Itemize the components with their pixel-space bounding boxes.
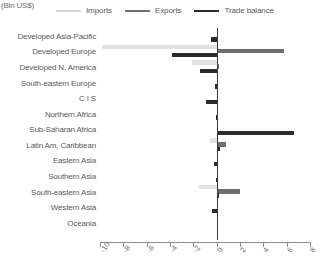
bar-group [0,90,320,106]
bar-group [0,199,320,215]
x-axis-tick-label: -2 [191,244,202,255]
chart-row: Developed Europe [0,44,320,60]
x-axis: -10-8-6-4-202468 [0,242,320,277]
chart-row: South-eastern Asia [0,184,320,200]
chart-row: Oceania [0,215,320,231]
bar-balance [200,69,216,73]
bar-group [0,28,320,44]
category-rows: Developed Asia-PacificDeveloped EuropeDe… [0,28,320,240]
chart-legend: Imports Exports Trade balance [56,6,274,15]
bar-exports [217,49,285,53]
bar-imports [192,60,217,64]
bar-group [0,137,320,153]
bar-group [0,122,320,138]
chart-row: Developed Asia-Pacific [0,28,320,44]
legend-swatch-exports-icon [125,10,150,12]
x-axis-tick-label: -8 [121,244,132,255]
bar-balance [172,53,216,57]
legend-swatch-imports-icon [56,10,81,12]
bar-group [0,153,320,169]
bar-imports [199,185,217,189]
bar-group [0,168,320,184]
x-axis-tick-label: 6 [285,246,295,255]
chart-row: Latin Am, Caribbean [0,137,320,153]
chart-row: C I S [0,90,320,106]
chart-row: Eastern Asia [0,153,320,169]
legend-label-exports: Exports [155,6,181,15]
x-axis-tick-label: -6 [145,244,156,255]
bar-imports [102,45,216,49]
chart-row: Developed N. America [0,59,320,75]
chart-row: Sub-Saharan Africa [0,122,320,138]
bar-group [0,215,320,231]
x-axis-tick-label: 0 [215,246,225,255]
bar-balance [217,131,294,135]
chart-row: Western Asia [0,199,320,215]
axis-unit-label: (Bln US$) [1,1,34,10]
legend-item-exports: Exports [125,6,181,15]
x-axis-tick-label: 4 [261,246,271,255]
legend-label-imports: Imports [86,6,112,15]
legend-item-imports: Imports [56,6,112,15]
legend-label-trade-balance: Trade balance [224,6,274,15]
bar-group [0,44,320,60]
zero-axis-line [217,28,218,240]
bar-balance [206,100,217,104]
x-axis-tick-label: 8 [308,246,318,255]
trade-bar-chart: (Bln US$) Imports Exports Trade balance … [0,0,320,277]
x-axis-tick-label: 2 [238,246,248,255]
chart-row: South-eastern Europe [0,75,320,91]
chart-row: Northern Africa [0,106,320,122]
x-axis-line [100,242,310,243]
plot-area: Developed Asia-PacificDeveloped EuropeDe… [0,28,320,240]
x-axis-tick-label: -4 [168,244,179,255]
legend-item-trade-balance: Trade balance [194,6,274,15]
bar-group [0,184,320,200]
bar-group [0,59,320,75]
legend-swatch-trade-balance-icon [194,10,219,12]
chart-row: Southern Asia [0,168,320,184]
bar-group [0,106,320,122]
bar-exports [217,189,240,193]
bar-imports [210,138,217,142]
bar-group [0,75,320,91]
